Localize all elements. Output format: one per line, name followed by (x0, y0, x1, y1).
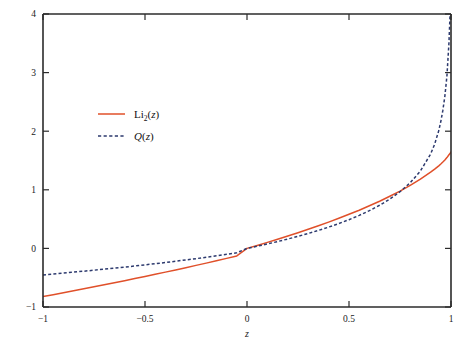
dilogarithm-plot: −101234 −1−0.500.51 z Li2(z) Q(z) (0, 0, 471, 350)
x-axis-title: z (244, 328, 249, 339)
figure-container: −101234 −1−0.500.51 z Li2(z) Q(z) (0, 0, 471, 350)
x-tick-label: −0.5 (136, 314, 153, 324)
x-tick-label: 1 (449, 314, 454, 324)
x-tick-label: 0.5 (343, 314, 355, 324)
y-tick-label: 4 (31, 9, 36, 19)
y-tick-label: 3 (31, 68, 36, 78)
x-tick-label: 0 (245, 314, 250, 324)
y-tick-label: 0 (31, 244, 36, 254)
plot-area-background (43, 14, 451, 307)
y-tick-label: 2 (31, 127, 36, 137)
x-tick-label: −1 (38, 314, 48, 324)
y-tick-label: 1 (31, 185, 36, 195)
legend-label-q: Q(z) (134, 130, 154, 143)
y-tick-label: −1 (26, 302, 36, 312)
